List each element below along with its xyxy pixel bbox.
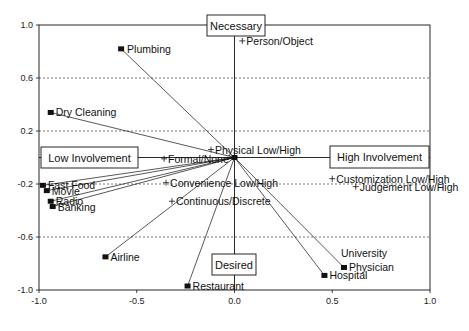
square-marker bbox=[321, 273, 327, 278]
necessary-box: Necessary bbox=[207, 15, 265, 36]
square-marker bbox=[48, 110, 54, 115]
attribute-points: Person/ObjectPhysical Low/HighFormal/Non… bbox=[161, 35, 458, 207]
point-label: Banking bbox=[58, 201, 96, 213]
plus-marker bbox=[163, 180, 169, 186]
point-label: Dry Cleaning bbox=[56, 106, 117, 118]
attribute-label: Judgement Low/High bbox=[360, 181, 459, 193]
plus-marker bbox=[239, 38, 245, 44]
plus-marker bbox=[169, 198, 175, 204]
svg-text:Low Involvement: Low Involvement bbox=[48, 152, 131, 164]
square-marker bbox=[50, 204, 56, 209]
plus-marker bbox=[161, 156, 167, 162]
y-tick-label: -0.6 bbox=[17, 232, 33, 242]
square-marker bbox=[118, 46, 124, 51]
desired-box: Desired bbox=[212, 254, 256, 275]
y-tick-label: -1.0 bbox=[17, 285, 33, 295]
attribute-label: Person/Object bbox=[246, 35, 313, 47]
y-axis-ticks: 1.00.60.2-0.2-0.6-1.0 bbox=[17, 20, 39, 295]
low-involvement-box: Low Involvement bbox=[41, 147, 138, 168]
square-marker bbox=[341, 265, 347, 270]
svg-text:High Involvement: High Involvement bbox=[337, 151, 422, 163]
point-label: University bbox=[341, 247, 388, 259]
x-tick-label: 1.0 bbox=[424, 296, 437, 306]
high-involvement-box: High Involvement bbox=[330, 146, 429, 168]
vector-line bbox=[235, 158, 344, 268]
origin-square bbox=[232, 155, 238, 160]
x-axis-ticks: -1.0-0.50.00.51.0 bbox=[31, 290, 436, 306]
x-tick-label: -1.0 bbox=[31, 296, 47, 306]
y-tick-label: 0.2 bbox=[20, 126, 33, 136]
svg-text:Necessary: Necessary bbox=[210, 20, 262, 32]
vector-line bbox=[121, 49, 234, 158]
point-label: Airline bbox=[110, 251, 139, 263]
attribute-label: Convenience Low/High bbox=[170, 177, 278, 189]
square-marker bbox=[185, 284, 191, 289]
point-label: Physician bbox=[349, 261, 394, 273]
attribute-label: Continuous/Discrete bbox=[176, 195, 271, 207]
scatter-chart: 1.00.60.2-0.2-0.6-1.0 -1.0-0.50.00.51.0 … bbox=[0, 0, 469, 331]
square-marker bbox=[102, 254, 108, 259]
y-tick-label: -0.2 bbox=[17, 179, 33, 189]
origin-marker bbox=[232, 155, 238, 160]
point-label: Plumbing bbox=[127, 43, 171, 55]
x-tick-label: 0.0 bbox=[228, 296, 241, 306]
point-label: Restaurant bbox=[193, 280, 244, 292]
plus-marker bbox=[329, 176, 335, 182]
y-tick-label: 1.0 bbox=[20, 20, 33, 30]
square-marker bbox=[48, 199, 54, 204]
svg-text:Desired: Desired bbox=[215, 259, 253, 271]
x-tick-label: -0.5 bbox=[129, 296, 145, 306]
x-tick-label: 0.5 bbox=[326, 296, 339, 306]
plus-marker bbox=[208, 147, 214, 153]
square-marker bbox=[40, 183, 46, 188]
y-tick-label: 0.6 bbox=[20, 73, 33, 83]
attribute-label: Formal/None bbox=[168, 153, 229, 165]
square-marker bbox=[44, 188, 50, 193]
